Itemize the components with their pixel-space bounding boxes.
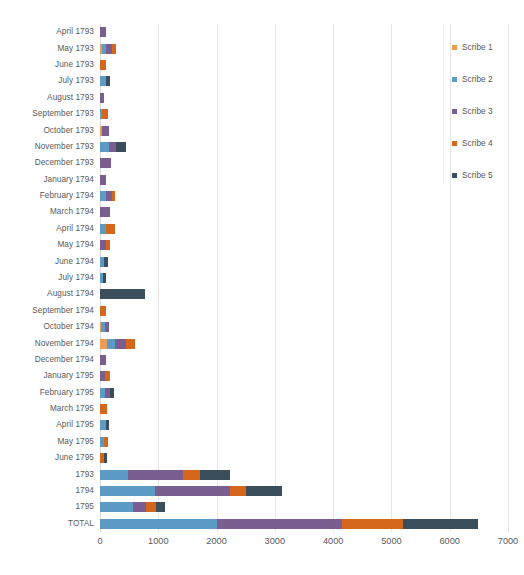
bar-row[interactable] xyxy=(100,371,508,381)
bar-row[interactable] xyxy=(100,142,508,152)
bar-row[interactable] xyxy=(100,257,508,267)
bar-segment-scribe-3[interactable] xyxy=(155,486,230,496)
bar-segment-scribe-5[interactable] xyxy=(110,388,113,398)
legend-item-scribe-5[interactable]: Scribe 5 xyxy=(452,168,522,182)
bar-row[interactable] xyxy=(100,175,508,185)
bar-row[interactable] xyxy=(100,453,508,463)
stacked-bar[interactable] xyxy=(100,191,115,201)
stacked-bar[interactable] xyxy=(100,437,108,447)
bar-segment-scribe-3[interactable] xyxy=(100,93,104,103)
stacked-bar[interactable] xyxy=(100,470,230,480)
stacked-bar[interactable] xyxy=(100,289,145,299)
legend-item-scribe-2[interactable]: Scribe 2 xyxy=(452,72,522,86)
stacked-bar[interactable] xyxy=(100,339,135,349)
stacked-bar[interactable] xyxy=(100,158,111,168)
bar-row[interactable] xyxy=(100,355,508,365)
stacked-bar[interactable] xyxy=(100,502,165,512)
stacked-bar[interactable] xyxy=(100,355,106,365)
bar-segment-scribe-4[interactable] xyxy=(112,44,116,54)
stacked-bar[interactable] xyxy=(100,207,110,217)
stacked-bar[interactable] xyxy=(100,126,109,136)
stacked-bar[interactable] xyxy=(100,404,107,414)
bar-segment-scribe-5[interactable] xyxy=(100,289,145,299)
stacked-bar[interactable] xyxy=(100,486,282,496)
stacked-bar[interactable] xyxy=(100,306,106,316)
bar-segment-scribe-2[interactable] xyxy=(100,502,133,512)
bar-segment-scribe-4[interactable] xyxy=(102,109,108,119)
stacked-bar[interactable] xyxy=(100,240,110,250)
bar-row[interactable] xyxy=(100,44,508,54)
bar-segment-scribe-4[interactable] xyxy=(342,519,403,529)
bar-segment-scribe-5[interactable] xyxy=(106,76,109,86)
bar-row[interactable] xyxy=(100,126,508,136)
bar-row[interactable] xyxy=(100,60,508,70)
bar-segment-scribe-3[interactable] xyxy=(100,27,106,37)
bar-segment-scribe-4[interactable] xyxy=(112,191,115,201)
bar-row[interactable] xyxy=(100,109,508,119)
stacked-bar[interactable] xyxy=(100,453,107,463)
bar-segment-scribe-4[interactable] xyxy=(230,486,246,496)
bar-row[interactable] xyxy=(100,420,508,430)
bar-row[interactable] xyxy=(100,306,508,316)
bar-segment-scribe-5[interactable] xyxy=(116,142,126,152)
stacked-bar[interactable] xyxy=(100,44,116,54)
stacked-bar[interactable] xyxy=(100,109,108,119)
legend-item-scribe-1[interactable]: Scribe 1 xyxy=(452,40,522,54)
stacked-bar[interactable] xyxy=(100,93,104,103)
stacked-bar[interactable] xyxy=(100,76,110,86)
bar-row[interactable] xyxy=(100,339,508,349)
bar-segment-scribe-3[interactable] xyxy=(109,142,117,152)
bar-segment-scribe-4[interactable] xyxy=(100,404,107,414)
bar-row[interactable] xyxy=(100,273,508,283)
bar-row[interactable] xyxy=(100,322,508,332)
bar-segment-scribe-2[interactable] xyxy=(100,470,128,480)
bar-segment-scribe-4[interactable] xyxy=(126,339,136,349)
bar-row[interactable] xyxy=(100,93,508,103)
bar-row[interactable] xyxy=(100,519,508,529)
bar-row[interactable] xyxy=(100,191,508,201)
bar-row[interactable] xyxy=(100,502,508,512)
bar-segment-scribe-4[interactable] xyxy=(104,437,108,447)
bar-segment-scribe-2[interactable] xyxy=(100,486,155,496)
bar-segment-scribe-5[interactable] xyxy=(104,453,107,463)
bar-row[interactable] xyxy=(100,486,508,496)
bar-segment-scribe-5[interactable] xyxy=(103,273,106,283)
bar-row[interactable] xyxy=(100,158,508,168)
stacked-bar[interactable] xyxy=(100,273,106,283)
bar-segment-scribe-4[interactable] xyxy=(100,306,106,316)
bar-segment-scribe-4[interactable] xyxy=(105,371,110,381)
bar-segment-scribe-4[interactable] xyxy=(106,240,109,250)
bar-segment-scribe-3[interactable] xyxy=(217,519,342,529)
bar-segment-scribe-3[interactable] xyxy=(105,322,109,332)
stacked-bar[interactable] xyxy=(100,388,114,398)
bar-segment-scribe-1[interactable] xyxy=(100,339,107,349)
stacked-bar[interactable] xyxy=(100,60,106,70)
legend-item-scribe-3[interactable]: Scribe 3 xyxy=(452,104,522,118)
bar-row[interactable] xyxy=(100,27,508,37)
stacked-bar[interactable] xyxy=(100,420,109,430)
bar-segment-scribe-4[interactable] xyxy=(183,470,200,480)
bar-row[interactable] xyxy=(100,470,508,480)
stacked-bar[interactable] xyxy=(100,257,108,267)
bar-segment-scribe-4[interactable] xyxy=(106,224,116,234)
bar-segment-scribe-4[interactable] xyxy=(146,502,156,512)
bar-segment-scribe-3[interactable] xyxy=(102,126,109,136)
bar-row[interactable] xyxy=(100,207,508,217)
bar-segment-scribe-5[interactable] xyxy=(246,486,283,496)
legend-item-scribe-4[interactable]: Scribe 4 xyxy=(452,136,522,150)
bar-segment-scribe-5[interactable] xyxy=(200,470,230,480)
bar-segment-scribe-4[interactable] xyxy=(100,60,106,70)
bar-row[interactable] xyxy=(100,224,508,234)
bar-segment-scribe-5[interactable] xyxy=(104,257,108,267)
bar-segment-scribe-3[interactable] xyxy=(128,470,183,480)
bar-segment-scribe-5[interactable] xyxy=(156,502,165,512)
bar-row[interactable] xyxy=(100,240,508,250)
bar-row[interactable] xyxy=(100,404,508,414)
bar-row[interactable] xyxy=(100,76,508,86)
bar-segment-scribe-2[interactable] xyxy=(100,142,109,152)
bar-segment-scribe-3[interactable] xyxy=(100,355,106,365)
bar-segment-scribe-3[interactable] xyxy=(115,339,125,349)
stacked-bar[interactable] xyxy=(100,175,106,185)
bar-segment-scribe-3[interactable] xyxy=(100,158,111,168)
bar-row[interactable] xyxy=(100,437,508,447)
